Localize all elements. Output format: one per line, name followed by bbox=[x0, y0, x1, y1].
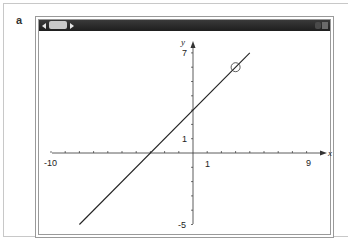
y-tick-label-min: -5 bbox=[178, 220, 186, 230]
series-line bbox=[79, 53, 249, 225]
y-axis bbox=[191, 41, 196, 225]
x-tick-label-max: 9 bbox=[306, 158, 311, 168]
y-tick-label-one: 1 bbox=[182, 134, 187, 144]
x-tick-label-min: -10 bbox=[44, 158, 57, 168]
y-axis-label: y bbox=[180, 37, 185, 47]
y-tick-label-max: 7 bbox=[182, 48, 187, 58]
y-axis-arrow-icon bbox=[191, 41, 196, 48]
x-tick-label-one: 1 bbox=[205, 159, 210, 169]
x-axis-label: x bbox=[327, 148, 332, 158]
x-axis bbox=[51, 151, 327, 156]
